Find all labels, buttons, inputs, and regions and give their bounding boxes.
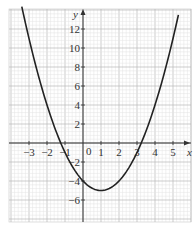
y-tick-label: 12 bbox=[69, 23, 80, 35]
x-tick-label: 4 bbox=[152, 146, 158, 158]
x-tick-label: 1 bbox=[98, 146, 104, 158]
y-tick-label: 8 bbox=[75, 61, 81, 73]
y-tick-label: −6 bbox=[68, 194, 80, 206]
x-tick-label: −2 bbox=[41, 146, 53, 158]
y-tick-label: 10 bbox=[69, 42, 81, 54]
x-tick-label: 5 bbox=[170, 146, 176, 158]
y-axis-label: y bbox=[72, 8, 78, 20]
y-tick-label: 4 bbox=[75, 99, 81, 111]
origin-label: 0 bbox=[86, 145, 92, 157]
parabola-graph: −3−2−112345−6−4−224681012 x y 0 bbox=[0, 0, 196, 230]
y-tick-label: 2 bbox=[75, 118, 81, 130]
y-tick-label: 6 bbox=[75, 80, 81, 92]
x-tick-label: −3 bbox=[23, 146, 35, 158]
x-tick-label: 2 bbox=[116, 146, 122, 158]
x-axis-label: x bbox=[186, 146, 192, 158]
